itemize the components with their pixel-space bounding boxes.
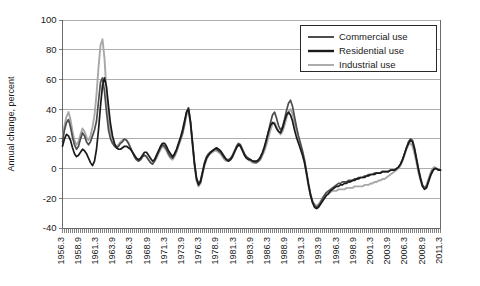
- x-tick-label: 2008.9: [417, 237, 427, 265]
- x-tick-label: 1981.3: [228, 237, 238, 265]
- x-tick-label: 1986.3: [262, 237, 272, 265]
- x-tick-label: 1998.9: [348, 237, 358, 265]
- legend-label-residential-use: Residential use: [339, 45, 404, 56]
- x-tick-label: 1956.3: [56, 237, 66, 265]
- y-tick-label: 20: [46, 133, 57, 144]
- y-tick-label: -40: [43, 222, 57, 233]
- x-tick-label: 1966.3: [124, 237, 134, 265]
- x-tick-label: 1958.9: [73, 237, 83, 265]
- y-tick-label: 40: [46, 104, 57, 115]
- x-tick-label: 1983.9: [245, 237, 255, 265]
- x-tick-labels: 1956.31958.91961.31963.91966.31968.91971…: [56, 237, 444, 265]
- x-tick-label: 1961.3: [90, 237, 100, 265]
- chart-legend: Commercial useResidential useIndustrial …: [301, 26, 437, 72]
- x-tick-label: 1973.9: [176, 237, 186, 265]
- x-tick-label: 2003.9: [382, 237, 392, 265]
- line-chart: -40-20020406080100 1956.31958.91961.3196…: [0, 0, 480, 286]
- y-tick-label: 0: [51, 163, 56, 174]
- y-tick-labels: -40-20020406080100: [41, 14, 63, 233]
- y-tick-label: -20: [43, 193, 57, 204]
- x-tick-label: 2001.3: [365, 237, 375, 265]
- x-tick-label: 1996.3: [331, 237, 341, 265]
- chart-figure: -40-20020406080100 1956.31958.91961.3196…: [0, 0, 480, 286]
- x-tick-label: 1976.3: [193, 237, 203, 265]
- x-tick-label: 1978.9: [210, 237, 220, 265]
- y-axis-title-text: Annual change, percent: [6, 76, 16, 172]
- x-tick-label: 2011.3: [434, 237, 444, 264]
- y-tick-label: 100: [41, 14, 57, 25]
- y-tick-label: 60: [46, 74, 57, 85]
- y-axis-title: Annual change, percent: [6, 76, 16, 172]
- x-tick-label: 1968.9: [142, 237, 152, 265]
- x-tick-label: 2006.3: [399, 237, 409, 265]
- x-tick-label: 1971.3: [159, 237, 169, 265]
- legend-label-industrial-use: Industrial use: [339, 59, 396, 70]
- x-tick-label: 1988.9: [279, 237, 289, 265]
- x-tick-label: 1993.9: [313, 237, 323, 265]
- x-tick-label: 1963.9: [107, 237, 117, 265]
- y-tick-label: 80: [46, 44, 57, 55]
- x-tick-label: 1991.3: [296, 237, 306, 265]
- legend-label-commercial-use: Commercial use: [339, 31, 408, 42]
- x-tick-marks: [63, 229, 441, 234]
